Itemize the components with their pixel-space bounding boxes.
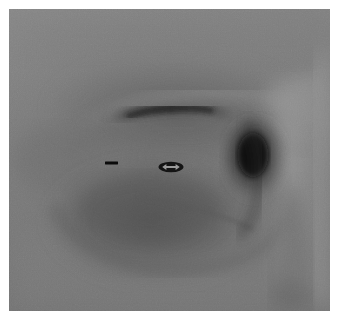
dash-marker-icon[interactable] [105, 161, 118, 165]
double-arrow-marker-glyph [158, 160, 184, 174]
double-arrow-marker-icon[interactable] [158, 160, 184, 174]
radiograph-image [9, 9, 330, 311]
radiograph-viewer [0, 0, 339, 333]
dash-marker-glyph [105, 161, 118, 165]
